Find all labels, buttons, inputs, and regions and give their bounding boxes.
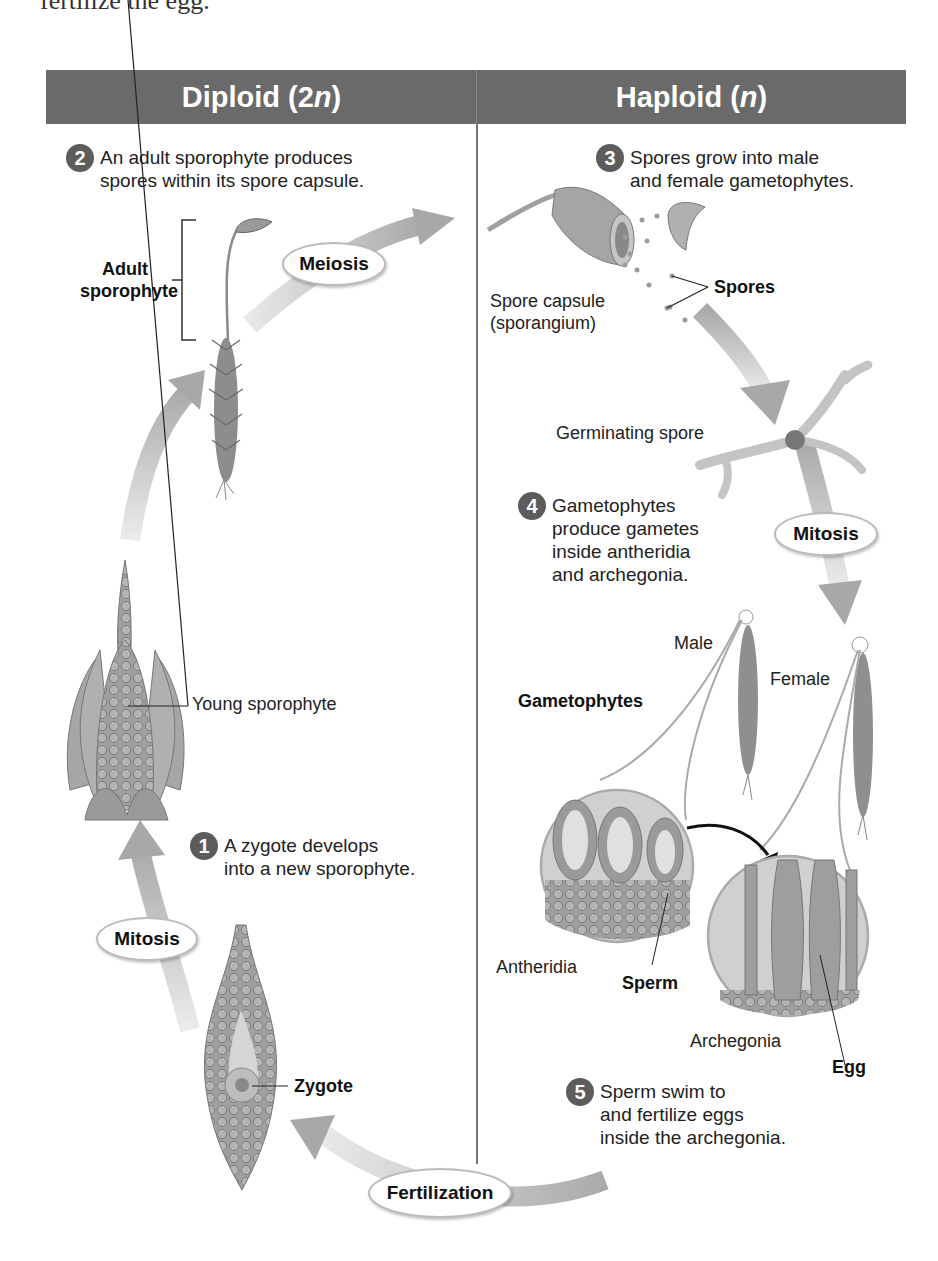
archegonia-label: Archegonia — [690, 1030, 781, 1052]
adult-sporophyte-illustration — [172, 219, 272, 500]
step-3-badge: 3 — [596, 144, 624, 172]
archegonia-illustration — [708, 856, 868, 1016]
step-4-badge: 4 — [518, 492, 546, 520]
adult-sporophyte-label: Adult sporophyte — [80, 258, 170, 302]
step-2: 2 An adult sporophyte produces spores wi… — [66, 146, 364, 192]
young-sporophyte-label: Young sporophyte — [192, 693, 336, 715]
step-5-badge: 5 — [566, 1078, 594, 1106]
mitosis-label-left: Mitosis — [96, 917, 198, 961]
step-1: 1 A zygote develops into a new sporophyt… — [190, 834, 415, 880]
meiosis-label: Meiosis — [282, 242, 386, 286]
antheridia-label: Antheridia — [496, 956, 577, 978]
growth-arrow-left — [130, 370, 205, 540]
spore-capsule-label: Spore capsule (sporangium) — [490, 290, 605, 334]
fertilization-label: Fertilization — [368, 1168, 512, 1218]
spores-label: Spores — [714, 276, 775, 298]
zygote-illustration — [204, 925, 288, 1190]
germinating-spore-label: Germinating spore — [556, 422, 704, 444]
sperm-transfer-arrow — [687, 825, 768, 855]
female-label: Female — [770, 668, 830, 690]
spore-germination-arrow — [700, 310, 790, 425]
step-1-badge: 1 — [190, 832, 218, 860]
step-5: 5 Sperm swim to and fertilize eggs insid… — [566, 1080, 786, 1149]
female-gametophyte-illustration — [852, 637, 873, 840]
male-label: Male — [674, 632, 713, 654]
zygote-label: Zygote — [294, 1075, 353, 1097]
egg-label: Egg — [832, 1056, 866, 1078]
step-4: 4 Gametophytes produce gametes inside an… — [518, 494, 699, 586]
mitosis-label-right: Mitosis — [774, 512, 878, 556]
gametophytes-label: Gametophytes — [518, 690, 643, 712]
male-gametophyte-illustration — [738, 610, 758, 800]
step-2-badge: 2 — [66, 144, 94, 172]
sperm-label: Sperm — [622, 972, 678, 994]
antheridia-illustration — [541, 790, 693, 942]
step-3: 3 Spores grow into male and female gamet… — [596, 146, 854, 192]
